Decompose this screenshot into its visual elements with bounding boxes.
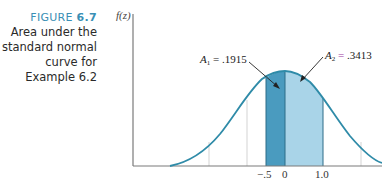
a2-label: A2 = .3413	[324, 49, 372, 63]
tick-label-one: 1.0	[315, 168, 329, 180]
normal-curve-chart: f(z) A1 = .1915 A2 = .3413 −.5 0 1.0	[0, 0, 382, 184]
tick-label-zero: 0	[282, 168, 288, 180]
a2-arrow	[302, 57, 323, 80]
tick-label-neg-half: −.5	[257, 168, 272, 180]
a1-label: A1 = .1915	[199, 53, 247, 67]
y-axis-label: f(z)	[116, 9, 131, 22]
region-a2	[285, 71, 323, 166]
